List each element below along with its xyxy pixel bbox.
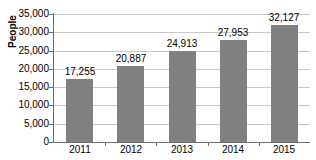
x-tick-label: 2012 [106, 144, 156, 156]
y-tick-label-wrap: 10,000 [0, 100, 49, 110]
x-tick-label: 2014 [208, 144, 258, 156]
y-tick-label: 30,000 [1, 27, 49, 37]
y-tick-mark [49, 32, 53, 33]
bar-value-label: 20,887 [101, 53, 161, 64]
bar-value-label: 24,913 [152, 38, 212, 49]
x-tick-label: 2013 [157, 144, 207, 156]
y-tick-label-wrap: 30,000 [0, 27, 49, 37]
x-tick-label: 2015 [259, 144, 309, 156]
bar-chart: People 05,00010,00015,00020,00025,00030,… [0, 0, 316, 160]
y-tick-mark [49, 51, 53, 52]
y-tick-mark [49, 105, 53, 106]
bar-value-label: 32,127 [254, 12, 314, 23]
y-tick-label: 35,000 [1, 9, 49, 19]
x-axis-line [53, 142, 310, 143]
bar [117, 66, 144, 142]
bar [271, 25, 298, 142]
bar [66, 79, 93, 142]
bar [169, 51, 196, 142]
y-tick-label-wrap: 15,000 [0, 82, 49, 92]
y-tick-label: 15,000 [1, 82, 49, 92]
y-tick-mark [49, 142, 53, 143]
x-tick-label: 2011 [55, 144, 105, 156]
y-tick-label-wrap: 0 [0, 137, 49, 147]
y-tick-mark [49, 87, 53, 88]
y-tick-label: 25,000 [1, 46, 49, 56]
y-tick-label: 10,000 [1, 100, 49, 110]
y-tick-label-wrap: 25,000 [0, 46, 49, 56]
y-tick-label: 20,000 [1, 64, 49, 74]
y-tick-mark [49, 124, 53, 125]
bar-value-label: 27,953 [203, 27, 263, 38]
y-tick-label-wrap: 35,000 [0, 9, 49, 19]
y-tick-label-wrap: 20,000 [0, 64, 49, 74]
y-tick-label-wrap: 5,000 [0, 119, 49, 129]
y-tick-label: 5,000 [1, 119, 49, 129]
y-tick-label: 0 [1, 137, 49, 147]
bar-value-label: 17,255 [50, 66, 110, 77]
bar [220, 40, 247, 142]
y-tick-mark [49, 14, 53, 15]
